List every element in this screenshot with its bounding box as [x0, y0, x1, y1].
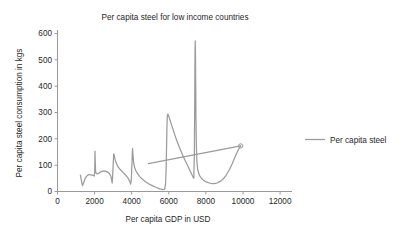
y-axis-label: Per capita steel consumption in kgs — [15, 49, 24, 178]
legend: Per capita steel — [305, 136, 387, 145]
y-tick-label: 400 — [38, 82, 52, 91]
y-axis-ticks: 0 100 200 300 400 500 600 — [38, 29, 57, 196]
x-tick-label: 6000 — [160, 197, 179, 206]
x-tick-label: 8000 — [197, 197, 216, 206]
y-tick-label: 0 — [47, 187, 52, 196]
y-tick-label: 600 — [38, 29, 52, 38]
y-tick-label: 100 — [38, 161, 52, 170]
x-tick-label: 0 — [55, 197, 60, 206]
y-tick-label: 300 — [38, 108, 52, 117]
legend-item-label: Per capita steel — [330, 136, 387, 145]
y-tick-label: 200 — [38, 135, 52, 144]
series-line-per-capita-steel — [80, 41, 240, 190]
x-axis-label: Per capita GDP in USD — [126, 215, 211, 224]
x-tick-label: 10000 — [232, 197, 255, 206]
line-chart: Per capita steel for low income countrie… — [0, 0, 415, 234]
x-tick-label: 12000 — [269, 197, 292, 206]
chart-title: Per capita steel for low income countrie… — [102, 13, 249, 22]
chart-container: Per capita steel for low income countrie… — [0, 0, 415, 234]
x-tick-label: 4000 — [123, 197, 142, 206]
plot-series-group — [80, 41, 242, 190]
y-tick-label: 500 — [38, 56, 52, 65]
x-tick-label: 2000 — [85, 197, 104, 206]
x-axis-ticks: 0 2000 4000 6000 8000 10000 12000 — [55, 192, 292, 206]
